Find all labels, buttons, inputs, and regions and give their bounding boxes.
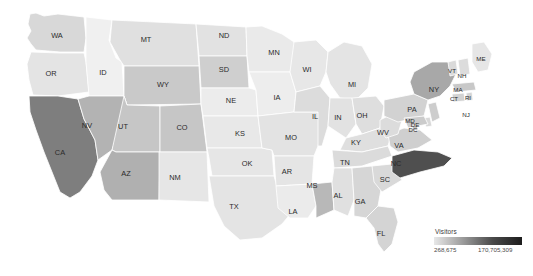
state-az[interactable] [100, 150, 160, 200]
state-vt[interactable] [448, 60, 458, 76]
state-shapes-group[interactable] [27, 13, 492, 252]
state-in[interactable] [328, 98, 356, 138]
state-al[interactable] [332, 168, 354, 216]
state-nc[interactable] [392, 150, 452, 178]
state-ne[interactable] [201, 88, 258, 116]
state-nm[interactable] [159, 152, 209, 202]
state-sd[interactable] [199, 56, 249, 88]
legend-tick-row: 268,675 170,705,309 [434, 246, 524, 256]
state-co[interactable] [160, 104, 207, 152]
state-mi[interactable] [326, 42, 372, 100]
state-nh[interactable] [458, 58, 470, 76]
legend-title: Visitors [435, 228, 524, 235]
state-wy[interactable] [124, 66, 201, 105]
state-ks[interactable] [203, 116, 262, 148]
state-mt[interactable] [110, 20, 199, 66]
legend-color-ramp [434, 237, 522, 245]
state-wi[interactable] [290, 40, 328, 92]
choropleth-map-figure: WAORIDMTWYCANVUTAZCONMNDSDNEKSOKTXMNIAMO… [0, 0, 533, 276]
state-ma[interactable] [452, 82, 476, 92]
legend-max-label: 170,705,309 [478, 246, 512, 253]
state-ct[interactable] [452, 93, 465, 102]
state-fl[interactable] [366, 206, 398, 252]
legend-min-label: 268,675 [434, 246, 456, 253]
state-mn[interactable] [246, 26, 296, 72]
state-label-nj: NJ [462, 111, 470, 118]
state-me[interactable] [472, 42, 492, 72]
state-ar[interactable] [274, 156, 314, 186]
state-or[interactable] [27, 52, 89, 96]
state-ms[interactable] [312, 182, 334, 218]
state-mo[interactable] [258, 112, 322, 156]
state-nd[interactable] [196, 24, 247, 56]
legend: Visitors 268,675 170,705,309 [434, 228, 524, 256]
state-ok[interactable] [207, 148, 274, 176]
state-wa[interactable] [27, 13, 86, 52]
state-ri[interactable] [466, 92, 473, 101]
state-dc[interactable] [412, 125, 418, 131]
